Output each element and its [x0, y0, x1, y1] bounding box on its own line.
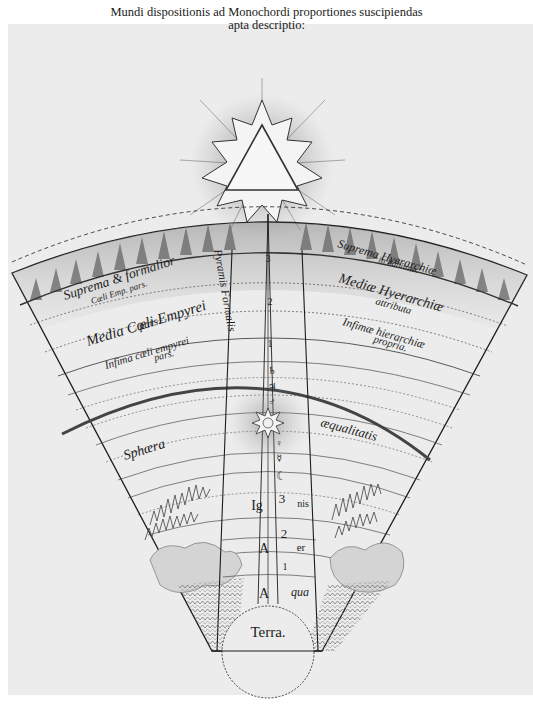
label-terra: Terra. — [250, 624, 285, 640]
symbol-jupiter: ♃ — [268, 381, 277, 392]
symbol-2-upper: 2 — [268, 296, 273, 307]
title-line-1: Mundi dispositionis ad Monochordi propor… — [110, 5, 422, 19]
engraving-title: Mundi dispositionis ad Monochordi propor… — [0, 6, 533, 32]
symbol-2-lower: 2 — [281, 526, 288, 541]
label-aer-2: er — [297, 541, 306, 553]
symbol-mercury: ☿ — [276, 453, 282, 463]
label-aequalitatis: æqualitatis — [319, 414, 379, 443]
label-ignis-1: Ig — [251, 498, 263, 513]
label-aer-1: A — [259, 541, 270, 556]
label-aqua-2: qua — [291, 585, 309, 599]
cosmic-monochord-diagram: Suprema & formalior Cœli Emp. pars. Medi… — [0, 0, 533, 708]
label-sphaera: Sphæra — [121, 436, 166, 463]
sun-icon — [228, 383, 308, 463]
symbol-1-lower: 1 — [283, 561, 288, 572]
symbol-moon: ☾ — [276, 469, 287, 483]
symbol-3-upper: 3 — [266, 253, 271, 264]
symbol-venus: ♀ — [276, 438, 283, 448]
label-aqua-1: A — [259, 586, 270, 601]
trinity-triangle-icon — [180, 78, 345, 237]
title-line-2: apta descriptio: — [0, 19, 533, 32]
label-ignis-2: nis — [297, 498, 309, 509]
fire-region — [145, 484, 381, 540]
symbol-saturn: ♄ — [268, 365, 277, 376]
symbol-3-lower: 3 — [279, 491, 286, 506]
symbol-mars: ♂ — [268, 396, 276, 407]
symbol-1-upper: 1 — [268, 338, 273, 349]
